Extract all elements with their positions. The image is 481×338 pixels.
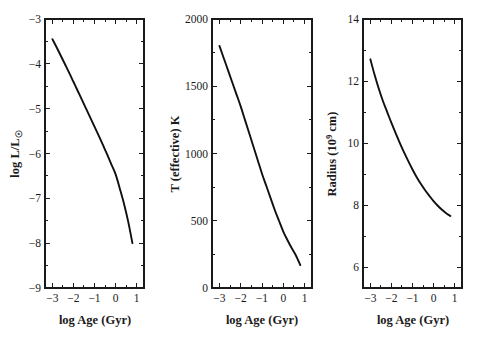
x-tick-label: 1: [134, 292, 140, 304]
y-tick-label: 1500: [185, 80, 208, 92]
panel-radius-ticks: [363, 19, 462, 288]
y-tick-label: −6: [29, 148, 41, 160]
panel-temperature-x-axis-title: log Age (Gyr): [226, 313, 298, 327]
y-tick-label: −9: [29, 282, 41, 294]
y-tick-label: −5: [29, 103, 41, 115]
panel-luminosity-ticks: [45, 19, 144, 288]
x-tick-label: 0: [431, 292, 437, 304]
panel-luminosity-y-ticklabels: −3−4−5−6−7−8−9: [29, 13, 41, 294]
panel-temperature: 0500100015002000 −3−2−101 T (effective) …: [160, 0, 320, 338]
panel-temperature-y-ticklabels: 0500100015002000: [185, 13, 208, 294]
y-tick-label: −8: [29, 237, 41, 249]
panel-luminosity: −3−4−5−6−7−8−9 −3−2−101 log L/L☉ log Age…: [0, 0, 160, 338]
y-tick-label: 10: [348, 137, 360, 149]
x-tick-label: −1: [406, 292, 418, 304]
panel-luminosity-x-ticklabels: −3−2−101: [46, 292, 140, 304]
panel-radius-y-axis-title: Radius (109 cm): [324, 112, 339, 197]
x-tick-label: −3: [46, 292, 58, 304]
y-tick-label: 8: [353, 199, 359, 211]
panel-temperature-svg: 0500100015002000 −3−2−101 T (effective) …: [160, 0, 320, 338]
x-tick-label: −3: [364, 292, 376, 304]
x-tick-label: −3: [213, 292, 225, 304]
y-tick-label: 14: [348, 13, 360, 25]
y-tick-label: 2000: [185, 13, 208, 25]
panel-radius-svg: 68101214 −3−2−101 Radius (109 cm) log Ag…: [320, 0, 481, 338]
panel-luminosity-y-axis-title: log L/L☉: [8, 130, 24, 177]
panel-radius: 68101214 −3−2−101 Radius (109 cm) log Ag…: [320, 0, 481, 338]
x-tick-label: 1: [302, 292, 308, 304]
x-tick-label: −2: [235, 292, 247, 304]
panel-radius-frame: [363, 19, 462, 288]
x-tick-label: −1: [256, 292, 268, 304]
x-tick-label: −1: [88, 292, 100, 304]
panel-luminosity-svg: −3−4−5−6−7−8−9 −3−2−101 log L/L☉ log Age…: [0, 0, 160, 338]
y-tick-label: 0: [202, 282, 208, 294]
y-tick-label: −3: [29, 13, 41, 25]
panel-radius-y-ticklabels: 68101214: [348, 13, 360, 273]
y-tick-label: −4: [29, 58, 41, 70]
three-panel-figure: −3−4−5−6−7−8−9 −3−2−101 log L/L☉ log Age…: [0, 0, 481, 338]
y-tick-label: −7: [29, 192, 41, 204]
x-tick-label: 0: [113, 292, 119, 304]
panel-temperature-frame: [212, 19, 312, 288]
x-tick-label: −2: [67, 292, 79, 304]
y-tick-label: 500: [191, 215, 209, 227]
panel-luminosity-curve: [52, 39, 132, 243]
y-tick-label: 1000: [185, 148, 208, 160]
x-tick-label: −2: [385, 292, 397, 304]
panel-temperature-y-axis-title: T (effective) K: [168, 115, 182, 192]
x-tick-label: 1: [452, 292, 458, 304]
panel-temperature-ticks: [212, 19, 312, 288]
panel-temperature-x-ticklabels: −3−2−101: [213, 292, 307, 304]
panel-radius-x-ticklabels: −3−2−101: [364, 292, 458, 304]
panel-temperature-curve: [219, 46, 300, 265]
panel-luminosity-x-axis-title: log Age (Gyr): [59, 313, 131, 327]
panel-radius-x-axis-title: log Age (Gyr): [377, 313, 449, 327]
x-tick-label: 0: [280, 292, 286, 304]
panel-radius-curve: [370, 59, 450, 216]
y-tick-label: 12: [348, 75, 360, 87]
panel-luminosity-frame: [45, 19, 144, 288]
y-tick-label: 6: [353, 261, 359, 273]
